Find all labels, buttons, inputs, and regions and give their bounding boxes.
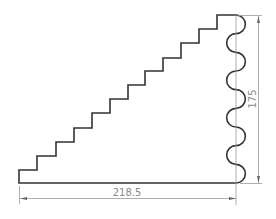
height-label: 175 (247, 89, 258, 108)
arrow-down-icon (257, 176, 260, 183)
drawing-canvas: 218.5 175 (0, 0, 276, 219)
arrow-right-icon (229, 197, 236, 200)
arrow-up-icon (257, 16, 260, 23)
staircase-outline (19, 15, 236, 183)
width-dimension: 218.5 (20, 186, 237, 204)
height-dimension: 175 (238, 16, 262, 184)
arrow-left-icon (20, 197, 27, 200)
width-label: 218.5 (113, 187, 142, 198)
